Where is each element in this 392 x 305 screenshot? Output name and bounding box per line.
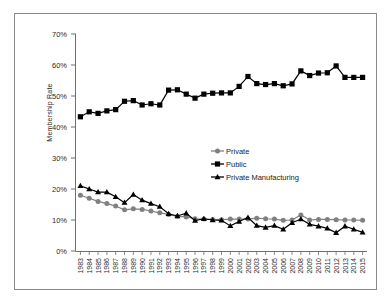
data-point-marker: [351, 75, 356, 80]
data-point-marker: [289, 81, 294, 86]
data-point-marker: [325, 70, 330, 75]
x-axis-tick-label: 1984: [86, 258, 93, 274]
data-point-marker: [140, 207, 145, 212]
data-point-marker: [148, 101, 153, 106]
data-point-marker: [237, 84, 242, 89]
data-point-marker: [271, 222, 277, 227]
legend-label: Private: [226, 147, 249, 156]
data-point-marker: [87, 196, 92, 201]
data-point-marker: [254, 216, 259, 221]
data-point-marker: [215, 149, 220, 154]
data-point-marker: [307, 73, 312, 78]
x-axis-tick-label: 1995: [183, 258, 190, 274]
data-point-marker: [263, 82, 268, 87]
data-point-marker: [175, 87, 180, 92]
x-axis-tick-label: 1998: [209, 258, 216, 274]
data-point-marker: [360, 218, 365, 223]
series-private-manufacturing: [77, 183, 365, 235]
x-axis-tick-group: 1983198419851986198719881989199019911992…: [77, 251, 366, 274]
data-point-marker: [342, 75, 347, 80]
x-axis-tick-label: 2015: [359, 258, 366, 274]
y-axis-tick-label: 20%: [52, 185, 67, 194]
data-point-marker: [113, 107, 118, 112]
legend-item-private-manufacturing[interactable]: Private Manufacturing: [211, 173, 299, 182]
x-axis-tick-label: 1991: [148, 258, 155, 274]
data-point-marker: [140, 102, 145, 107]
data-point-marker: [228, 90, 233, 95]
x-axis-tick-label: 1992: [156, 258, 163, 274]
data-point-marker: [122, 207, 127, 212]
data-point-marker: [148, 209, 153, 214]
data-point-marker: [157, 102, 162, 107]
data-point-marker: [228, 217, 233, 222]
chart-figure: Membership Rate 0%10%20%30%40%50%60%70% …: [0, 0, 392, 305]
x-axis-tick-label: 2004: [262, 258, 269, 274]
x-axis-tick-label: 2011: [324, 258, 331, 273]
data-point-marker: [334, 63, 339, 68]
x-axis-tick-label: 2002: [245, 258, 252, 274]
x-axis-tick-label: 2005: [271, 258, 278, 274]
x-axis-tick-label: 1987: [112, 258, 119, 274]
data-point-marker: [316, 70, 321, 75]
x-axis-tick-label: 1996: [192, 258, 199, 274]
x-axis-tick-label: 1985: [95, 258, 102, 274]
data-point-marker: [215, 161, 220, 166]
y-axis-tick-label: 60%: [52, 61, 67, 70]
y-axis-tick-label: 0%: [56, 247, 67, 256]
data-point-marker: [263, 216, 268, 221]
data-point-marker: [183, 210, 189, 215]
chart-legend: PrivatePublicPrivate Manufacturing: [211, 147, 299, 182]
data-point-marker: [192, 96, 197, 101]
y-axis-tick-group: 0%10%20%30%40%50%60%70%: [52, 30, 76, 256]
x-axis-tick-label: 1999: [218, 258, 225, 274]
chart-frame: Membership Rate 0%10%20%30%40%50%60%70% …: [14, 13, 377, 290]
data-point-marker: [201, 92, 206, 97]
data-point-marker: [78, 114, 83, 119]
series-public: [78, 63, 365, 119]
data-point-marker: [122, 99, 127, 104]
data-point-marker: [166, 88, 171, 93]
legend-label: Public: [226, 160, 247, 169]
data-point-marker: [307, 221, 313, 226]
data-point-marker: [96, 199, 101, 204]
x-axis-tick-label: 2012: [333, 258, 340, 274]
x-axis-tick-label: 1983: [77, 258, 84, 274]
data-point-marker: [131, 98, 136, 103]
data-point-marker: [316, 217, 321, 222]
x-axis-tick-label: 1988: [121, 258, 128, 274]
y-axis-tick-label: 10%: [52, 216, 67, 225]
y-axis-tick-label: 30%: [52, 154, 67, 163]
data-point-marker: [325, 217, 330, 222]
data-point-marker: [360, 75, 365, 80]
y-axis-tick-label: 70%: [52, 30, 67, 39]
data-point-marker: [334, 217, 339, 222]
data-point-marker: [131, 206, 136, 211]
data-point-marker: [87, 109, 92, 114]
data-point-marker: [342, 223, 348, 228]
series-line: [80, 195, 362, 220]
x-axis-tick-label: 2013: [342, 258, 349, 274]
x-axis-tick-label: 2007: [289, 258, 296, 274]
x-axis-tick-label: 1997: [200, 258, 207, 274]
x-axis-tick-label: 1986: [103, 258, 110, 274]
data-point-marker: [78, 193, 83, 198]
x-axis-tick-label: 1994: [174, 258, 181, 274]
data-point-marker: [219, 90, 224, 95]
legend-item-public[interactable]: Public: [211, 160, 247, 169]
legend-item-private[interactable]: Private: [211, 147, 249, 156]
x-axis-tick-label: 2000: [227, 258, 234, 274]
data-point-marker: [342, 218, 347, 223]
data-point-marker: [254, 81, 259, 86]
data-series-group: [77, 63, 365, 235]
data-point-marker: [210, 91, 215, 96]
data-point-marker: [77, 183, 83, 188]
data-point-marker: [351, 218, 356, 223]
data-point-marker: [272, 217, 277, 222]
x-axis-tick-label: 2003: [253, 258, 260, 274]
legend-label: Private Manufacturing: [226, 173, 299, 182]
data-point-marker: [281, 218, 286, 223]
data-point-marker: [139, 197, 145, 202]
data-point-marker: [130, 191, 136, 196]
x-axis-tick-label: 2014: [350, 258, 357, 274]
y-axis-tick-label: 50%: [52, 92, 67, 101]
